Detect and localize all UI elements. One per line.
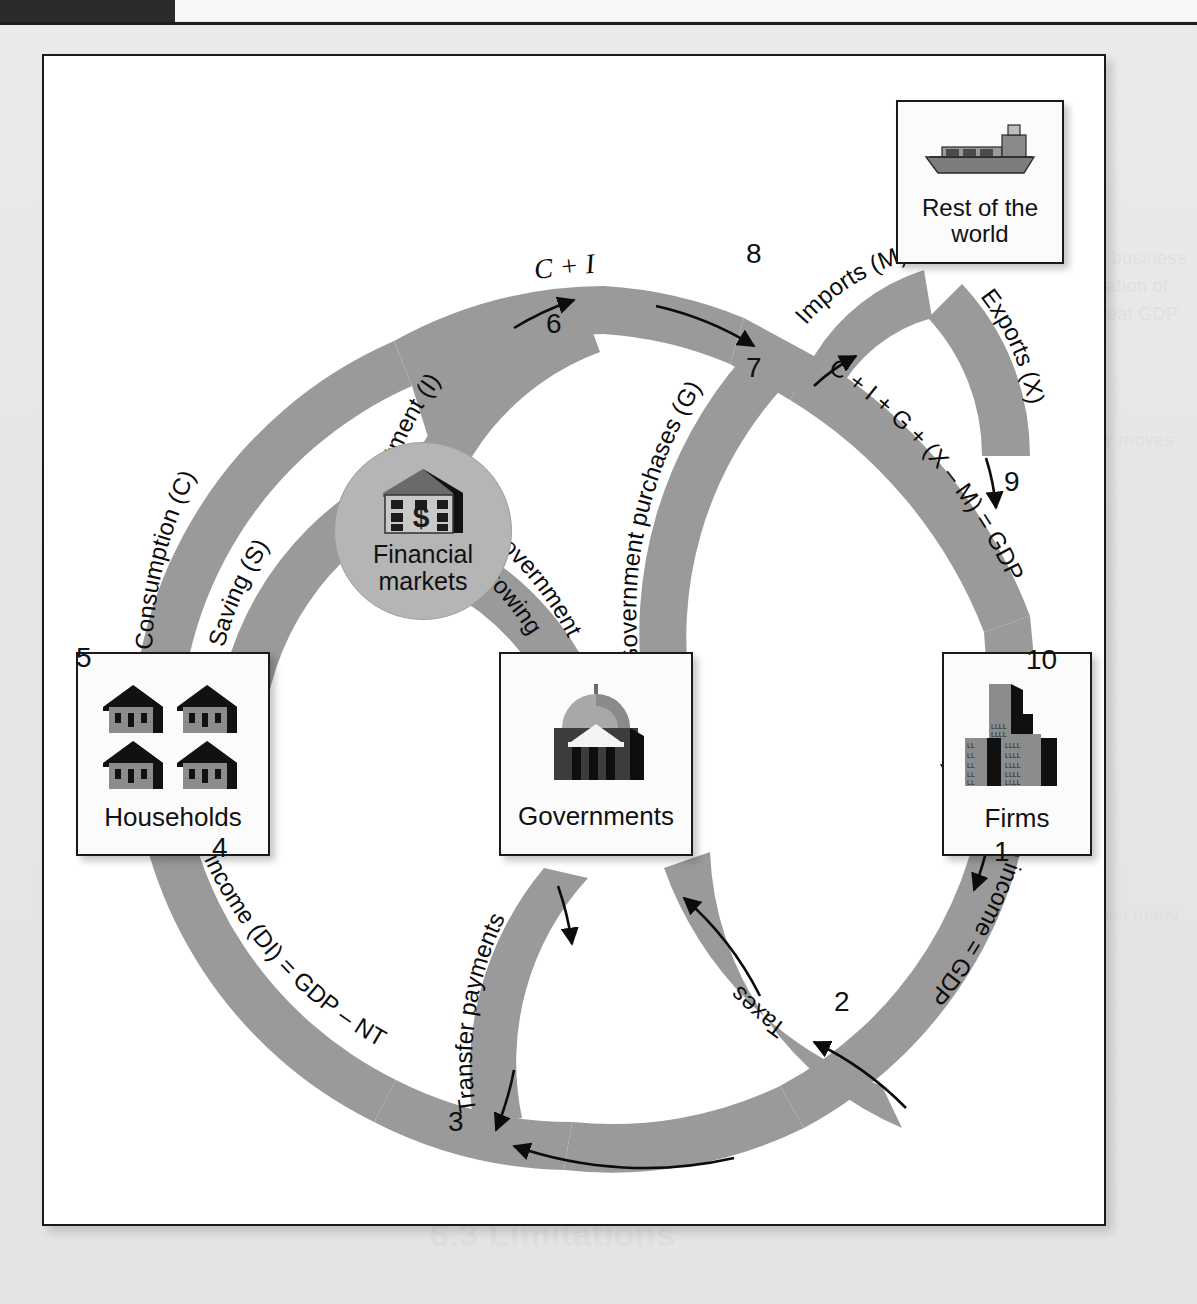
svg-text:LLLL: LLLL — [1005, 762, 1021, 769]
rest-of-world-label-line2: world — [951, 221, 1008, 247]
office-buildings-icon: LLLL LLLL LLLLLL LLLLLL LLLLLL LLLLLL LL… — [957, 676, 1077, 798]
page-top-dark-bar — [0, 0, 175, 22]
svg-text:LL: LL — [967, 742, 975, 749]
node-financial-markets[interactable]: $ Financial markets — [334, 442, 512, 620]
svg-text:LLLL: LLLL — [1005, 752, 1021, 759]
svg-text:LL: LL — [967, 762, 975, 769]
bank-dollar-icon: $ — [375, 467, 471, 541]
svg-text:LLLL: LLLL — [1005, 779, 1021, 786]
page-top-white-bar — [175, 0, 1197, 21]
houses-icon — [99, 677, 247, 793]
step-number-3: 3 — [448, 1106, 464, 1138]
step-number-2: 2 — [834, 986, 850, 1018]
step-number-8: 8 — [746, 238, 762, 270]
firms-label: Firms — [985, 804, 1050, 832]
cargo-ship-icon — [916, 117, 1044, 187]
node-governments[interactable]: Governments — [499, 652, 693, 856]
step-number-10: 10 — [1026, 644, 1057, 676]
svg-text:LL: LL — [967, 771, 975, 778]
financial-markets-label-line1: Financial — [373, 541, 473, 568]
page-top-rule — [0, 22, 1197, 25]
svg-text:LLLL: LLLL — [1005, 771, 1021, 778]
label-c-plus-i: C + I — [532, 248, 596, 286]
node-rest-of-world[interactable]: Rest of the world — [896, 100, 1064, 264]
capitol-building-icon — [532, 678, 660, 794]
svg-text:LL: LL — [967, 752, 975, 759]
households-label: Households — [104, 803, 241, 831]
svg-text:LLLL: LLLL — [1005, 742, 1021, 749]
svg-text:LLLL: LLLL — [991, 723, 1007, 730]
step-number-9: 9 — [1004, 466, 1020, 498]
step-number-4: 4 — [212, 832, 228, 864]
financial-markets-label-line2: markets — [379, 568, 468, 595]
step-number-1: 1 — [994, 836, 1010, 868]
node-households[interactable]: Households — [76, 652, 270, 856]
governments-label: Governments — [518, 802, 674, 830]
rest-of-world-label-line1: Rest of the — [922, 195, 1038, 221]
step-number-5: 5 — [76, 642, 92, 674]
node-firms[interactable]: LLLL LLLL LLLLLL LLLLLL LLLLLL LLLLLL LL… — [942, 652, 1092, 856]
svg-text:LL: LL — [967, 779, 975, 786]
svg-text:LLLL: LLLL — [991, 731, 1007, 738]
svg-text:$: $ — [413, 500, 430, 533]
step-number-6: 6 — [546, 308, 562, 340]
step-number-7: 7 — [746, 352, 762, 384]
figure-frame: Consumption (C) Saving (S) Investment (I… — [42, 54, 1106, 1226]
